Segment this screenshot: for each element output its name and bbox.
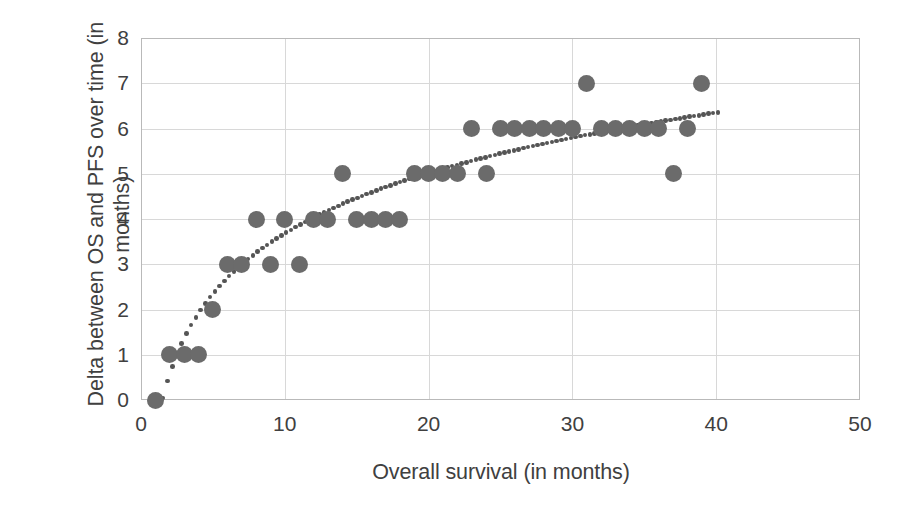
gridline-horizontal xyxy=(141,310,860,311)
data-point xyxy=(578,75,595,92)
gridline-vertical xyxy=(716,38,717,400)
trendline-dot xyxy=(260,246,265,251)
trendline-dot xyxy=(483,155,488,160)
gridline-horizontal xyxy=(141,174,860,175)
data-point xyxy=(564,120,581,137)
trendline-dot xyxy=(692,114,697,119)
data-point xyxy=(319,211,336,228)
trendline-dot xyxy=(189,323,194,328)
trendline-dot xyxy=(711,111,716,116)
gridline-vertical xyxy=(429,38,430,400)
y-tick-label: 7 xyxy=(89,71,129,95)
trendline-dot xyxy=(564,137,569,142)
trendline-dot xyxy=(298,222,303,227)
trendline-dot xyxy=(393,181,398,186)
plot-area xyxy=(141,38,860,400)
x-tick-label: 0 xyxy=(111,412,171,436)
trendline-dot xyxy=(179,341,184,346)
data-point xyxy=(248,211,265,228)
data-point xyxy=(693,75,710,92)
data-point xyxy=(478,165,495,182)
trendline-dot xyxy=(507,149,512,154)
y-tick-label: 3 xyxy=(89,252,129,276)
x-tick-label: 30 xyxy=(542,412,602,436)
data-point xyxy=(665,165,682,182)
y-tick-label: 8 xyxy=(89,26,129,50)
data-point xyxy=(463,120,480,137)
data-point xyxy=(650,120,667,137)
trendline-dot xyxy=(165,379,170,384)
data-point xyxy=(291,256,308,273)
axis-line-bottom xyxy=(141,399,860,400)
y-tick-label: 1 xyxy=(89,343,129,367)
trendline-dot xyxy=(559,138,564,143)
data-point xyxy=(147,392,164,409)
scatter-chart-figure: Delta between OS and PFS over time (in m… xyxy=(0,0,924,507)
x-tick-label: 10 xyxy=(255,412,315,436)
trendline-dot xyxy=(526,145,531,150)
trendline-dot xyxy=(469,159,474,164)
y-tick-label: 5 xyxy=(89,162,129,186)
data-point xyxy=(679,120,696,137)
x-tick-label: 40 xyxy=(686,412,746,436)
trendline-dot xyxy=(251,253,256,258)
trendline-dot xyxy=(198,308,203,313)
data-point xyxy=(204,301,221,318)
x-axis-label: Overall survival (in months) xyxy=(141,460,861,485)
trendline-dot xyxy=(265,243,270,248)
trendline-dot xyxy=(208,295,213,300)
gridline-vertical xyxy=(572,38,573,400)
axis-line-top xyxy=(141,38,860,39)
trendline-dot xyxy=(545,141,550,146)
x-tick-label: 20 xyxy=(399,412,459,436)
trendline-dot xyxy=(213,289,218,294)
trendline-dot xyxy=(170,364,175,369)
data-point xyxy=(190,346,207,363)
trendline-dot xyxy=(578,134,583,139)
axis-line-left xyxy=(141,38,142,400)
trendline-dot xyxy=(540,142,545,147)
trendline-dot xyxy=(355,196,360,201)
x-tick-label: 50 xyxy=(830,412,890,436)
trendline-dot xyxy=(521,146,526,151)
trendline-dot xyxy=(217,284,222,289)
trendline-dot xyxy=(583,133,588,138)
y-tick-label: 2 xyxy=(89,298,129,322)
y-tick-label: 0 xyxy=(89,388,129,412)
gridline-horizontal xyxy=(141,355,860,356)
gridline-horizontal xyxy=(141,83,860,84)
data-point xyxy=(262,256,279,273)
trendline-dot xyxy=(255,249,260,254)
y-axis-tick-labels: 012345678 xyxy=(85,38,129,400)
data-point xyxy=(334,165,351,182)
data-point xyxy=(276,211,293,228)
trendline-dot xyxy=(716,110,721,115)
data-point xyxy=(449,165,466,182)
data-point xyxy=(391,211,408,228)
trendline-dot xyxy=(279,233,284,238)
y-tick-label: 4 xyxy=(89,207,129,231)
trendline-dot xyxy=(488,154,493,159)
y-tick-label: 6 xyxy=(89,117,129,141)
trendline-dot xyxy=(274,236,279,241)
trendline-dot xyxy=(227,274,232,279)
trendline-dot xyxy=(222,279,227,284)
x-axis-tick-labels: 01020304050 xyxy=(141,412,860,442)
data-point xyxy=(233,256,250,273)
trendline-dot xyxy=(284,230,289,235)
trendline-dot xyxy=(184,331,189,336)
trendline-dot xyxy=(374,188,379,193)
trendline-dot xyxy=(336,204,341,209)
trendline-dot xyxy=(673,117,678,122)
trendline-dot xyxy=(194,315,199,320)
trendline-dot xyxy=(502,150,507,155)
axis-line-right xyxy=(859,38,860,400)
